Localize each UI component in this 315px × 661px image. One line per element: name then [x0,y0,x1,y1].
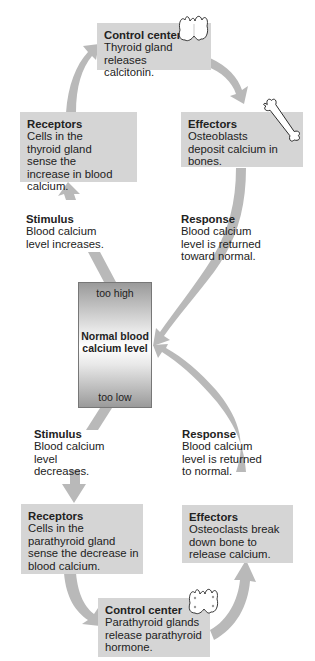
response-bottom-label: Response Blood calcium level is returned… [182,428,264,478]
arrow-receptors-to-control-top [66,44,99,113]
effectors-bottom-box: Effectors Osteoclasts break down bone to… [182,505,293,563]
effectors-bottom-body: Osteoclasts break down bone to release c… [189,523,289,560]
stimulus-top-label: Stimulus Blood calcium level increases. [26,213,106,250]
normal-calcium-level-box: too high Normal blood calcium level too … [78,282,152,408]
response-bottom-body: Blood calcium level is returned to norma… [182,440,264,477]
arrow-receptors-to-control-bottom [64,573,100,626]
response-bottom-title: Response [182,428,264,440]
normal-level-label: Normal blood calcium level [79,330,151,354]
bone-icon [252,95,308,151]
receptors-top-title: Receptors [27,118,130,130]
receptors-top-box: Receptors Cells in the thyroid gland sen… [20,112,137,182]
response-top-body: Blood calcium level is returned toward n… [181,225,263,262]
receptors-bottom-body: Cells in the parathyroid gland sense the… [28,522,140,572]
stimulus-bottom-title: Stimulus [34,428,114,440]
stimulus-bottom-body: Blood calcium level decreases. [34,440,114,477]
response-top-label: Response Blood calcium level is returned… [181,213,263,263]
stimulus-top-body: Blood calcium level increases. [26,225,106,250]
arrow-control-to-effectors-top [206,58,248,104]
receptors-bottom-box: Receptors Cells in the parathyroid gland… [21,504,143,574]
arrow-center-to-stimulus-top [88,252,116,282]
parathyroid-glands-icon [186,585,222,619]
stimulus-top-title: Stimulus [26,213,106,225]
stimulus-bottom-label: Stimulus Blood calcium level decreases. [34,428,114,478]
receptors-top-body: Cells in the thyroid gland sense the inc… [27,130,117,192]
effectors-bottom-title: Effectors [189,511,286,523]
receptors-bottom-title: Receptors [28,510,136,522]
too-high-label: too high [79,287,151,299]
thyroid-gland-icon [176,12,212,48]
too-low-label: too low [79,391,151,403]
response-top-title: Response [181,213,263,225]
control-center-bottom-body: Parathyroid glands release parathyroid h… [105,616,203,653]
arrow-center-to-stimulus-bottom [86,408,112,430]
